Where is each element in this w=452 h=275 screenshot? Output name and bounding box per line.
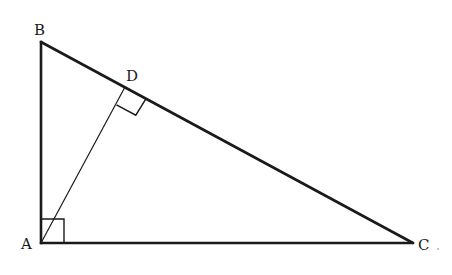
label-d: D [126,67,138,85]
right-angle-mark-d [117,98,147,115]
label-a: A [20,235,32,253]
segment-ad [41,87,125,243]
label-b: B [34,21,45,39]
dot-mark [437,248,439,250]
label-c: C [418,236,429,254]
triangle-diagram: B D A C [0,0,452,275]
segment-bc [41,42,413,243]
